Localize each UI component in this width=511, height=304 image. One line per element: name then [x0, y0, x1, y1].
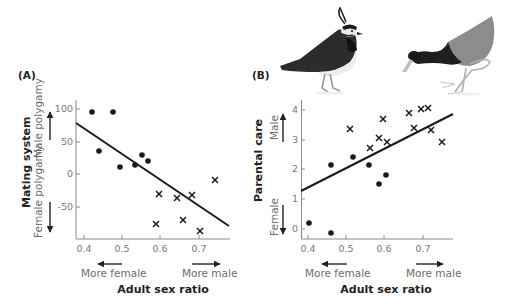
figure: (A) 100 50 0 -50 0.4 0.5 0.6 0.7 — [0, 0, 511, 304]
svg-text:-50: -50 — [57, 201, 73, 212]
svg-text:50: 50 — [61, 136, 73, 147]
regression-line-a — [76, 123, 229, 226]
lapwing-illustration — [280, 8, 363, 95]
cross-series-a — [153, 177, 218, 234]
x-direction-left-b: More female — [305, 267, 371, 279]
panel-label-b: (B) — [252, 69, 270, 81]
chart-a: (A) 100 50 0 -50 0.4 0.5 0.6 0.7 — [18, 69, 237, 296]
dots-series-a — [89, 109, 151, 170]
svg-text:0.7: 0.7 — [415, 243, 430, 254]
y-ticks-b: 4 3 2 1 0 — [292, 104, 305, 234]
x-ticks-a: 0.4 0.5 0.6 0.7 — [76, 235, 206, 254]
x-direction-right-b: More male — [406, 267, 461, 279]
x-direction-right-a: More male — [182, 267, 237, 279]
svg-text:0.6: 0.6 — [376, 243, 391, 254]
chart-b: (B) 4 3 2 1 0 0.4 0.5 0.6 0.7 — [252, 69, 461, 296]
x-axis-title-a: Adult sex ratio — [117, 283, 209, 296]
svg-text:0.6: 0.6 — [152, 243, 167, 254]
x-ticks-b: 0.4 0.5 0.6 0.7 — [300, 235, 430, 254]
svg-text:0.7: 0.7 — [191, 243, 206, 254]
x-direction-left-a: More female — [81, 267, 147, 279]
y-direction-bottom-a: Female polygamy — [32, 145, 44, 238]
cross-series-b — [347, 105, 445, 151]
svg-text:0: 0 — [67, 168, 73, 179]
svg-text:100: 100 — [55, 103, 73, 114]
svg-text:2: 2 — [292, 163, 298, 174]
svg-text:0.5: 0.5 — [338, 243, 353, 254]
jacana-illustration — [402, 16, 494, 96]
svg-text:3: 3 — [292, 134, 298, 145]
y-direction-top-b: Male — [268, 115, 280, 140]
svg-text:0.4: 0.4 — [300, 243, 315, 254]
y-axis-title-a: Mating system — [20, 117, 33, 208]
svg-text:0: 0 — [292, 223, 298, 234]
y-direction-bottom-b: Female — [268, 198, 280, 236]
y-axis-title-b: Parental care — [252, 119, 265, 202]
x-axis-title-b: Adult sex ratio — [340, 283, 432, 296]
svg-text:0.5: 0.5 — [114, 243, 129, 254]
svg-text:4: 4 — [292, 104, 298, 115]
svg-text:1: 1 — [292, 193, 298, 204]
svg-text:0.4: 0.4 — [76, 243, 91, 254]
regression-line-b — [301, 114, 453, 191]
